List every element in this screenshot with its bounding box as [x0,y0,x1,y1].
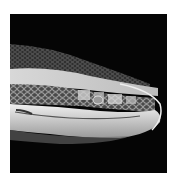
photo-frame [10,14,167,173]
snake-head-photo [10,14,167,173]
